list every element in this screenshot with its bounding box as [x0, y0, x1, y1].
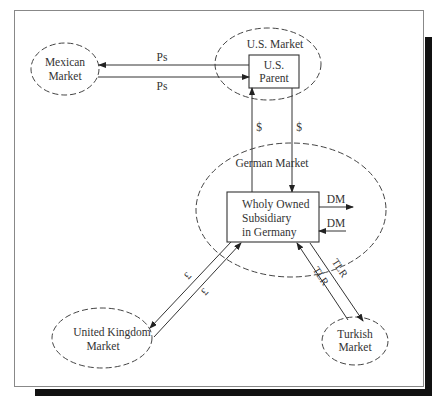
arrow-sub-to-uk: [150, 242, 231, 328]
uk-market-label-1: United Kingdom: [73, 326, 151, 339]
ps-label-top: Ps: [157, 51, 168, 63]
pound-label-left: £: [182, 270, 194, 281]
subsidiary-label-2: Subsidiary: [242, 212, 291, 225]
uk-market-oval: [52, 308, 152, 368]
turkish-market-label-1: Turkish: [337, 328, 373, 340]
subsidiary-node: Wholy Owned Subsidiary in Germany: [227, 192, 319, 242]
tlr-flows: TLR TLR: [297, 243, 363, 321]
ps-label-bottom: Ps: [157, 80, 168, 92]
dm-label-bottom: DM: [327, 217, 346, 229]
dollar-label-right: $: [296, 121, 302, 133]
uk-market-label-2: Market: [86, 340, 120, 352]
pound-label-right: £: [199, 286, 211, 297]
ps-flows: Ps Ps: [98, 51, 249, 92]
mexican-market-label-1: Mexican: [45, 56, 85, 68]
dollar-flows: $ $: [252, 88, 302, 192]
mexican-market-oval: [31, 43, 99, 95]
subsidiary-label-3: in Germany: [242, 226, 297, 239]
dollar-label-left: $: [256, 121, 262, 133]
pound-flows: £ £: [150, 242, 241, 337]
turkish-market-node: Turkish Market: [322, 317, 388, 365]
us-market-label: U.S. Market: [247, 38, 304, 50]
german-market-label: German Market: [235, 157, 309, 169]
tlr-label-left: TLR: [311, 265, 331, 288]
currency-flow-diagram: Mexican Market U.S. Market U.S. Parent P…: [0, 0, 439, 404]
dm-flows: DM DM: [319, 193, 353, 231]
dm-label-top: DM: [327, 193, 346, 205]
arrow-sub-to-turkey: [310, 243, 363, 321]
us-parent-node: U.S. Parent: [249, 55, 299, 88]
us-parent-label-2: Parent: [259, 72, 289, 84]
turkish-market-label-2: Market: [338, 341, 372, 353]
mexican-market-label-2: Market: [48, 70, 82, 82]
subsidiary-label-1: Wholy Owned: [242, 198, 310, 211]
mexican-market-node: Mexican Market: [31, 43, 99, 95]
us-parent-label-1: U.S.: [264, 59, 285, 71]
uk-market-node: United Kingdom Market: [52, 308, 152, 368]
